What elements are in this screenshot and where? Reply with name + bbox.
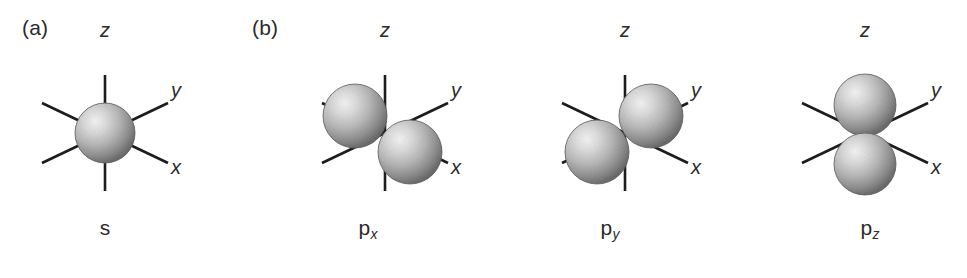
orbital-name-base: p (860, 216, 872, 239)
orbital-lobe (565, 120, 629, 184)
orbital-diagram-canvas (0, 0, 967, 278)
axis-label-x: x (931, 156, 941, 179)
orbital-name-label: s (100, 216, 111, 240)
orbital-name-label: pz (860, 216, 879, 242)
axis-label-y: y (171, 79, 181, 102)
orbital-name-label: px (358, 216, 377, 242)
orbital-name-subscript: y (613, 226, 620, 242)
orbital-lobe (323, 84, 387, 148)
orbital-name-base: p (358, 216, 370, 239)
axis-label-x: x (691, 156, 701, 179)
axis-label-z: z (860, 19, 870, 42)
orbital-name-base: s (100, 216, 111, 239)
axis-label-y: y (931, 79, 941, 102)
axis-label-z: z (620, 19, 630, 42)
axis-label-y: y (691, 79, 701, 102)
orbital-name-base: p (600, 216, 612, 239)
orbital-lobe (834, 133, 896, 195)
panel-tag: (a) (22, 16, 48, 40)
axis-label-y: y (451, 79, 461, 102)
axis-label-z: z (380, 19, 390, 42)
orbital-figure: (a)zyxs(b)zyxpxzyxpyzyxpz (0, 0, 967, 278)
orbital-name-subscript: z (873, 226, 880, 242)
orbital-name-subscript: x (371, 226, 378, 242)
orbital-lobe (378, 120, 442, 184)
orbital-lobe (619, 84, 683, 148)
axis-label-z: z (100, 19, 110, 42)
orbital-lobe (834, 74, 896, 136)
orbital-lobe (75, 103, 135, 163)
axis-label-x: x (171, 156, 181, 179)
axis-label-x: x (451, 156, 461, 179)
panel-tag: (b) (252, 16, 278, 40)
orbital-name-label: py (600, 216, 619, 242)
orbital-lobes-layer (75, 74, 896, 195)
